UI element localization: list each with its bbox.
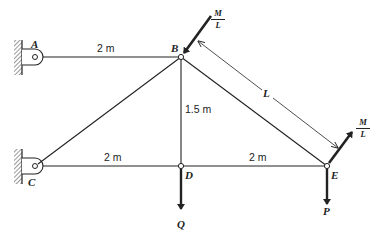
node-label-b: B [171, 43, 178, 54]
dimension-line-l-b [273, 98, 338, 148]
dimension-be: L [263, 88, 270, 99]
load-label-e: M L [356, 118, 370, 138]
load-label-b-denominator: L [211, 20, 225, 30]
load-label-q: Q [177, 219, 185, 230]
node-label-c: C [28, 177, 35, 188]
joint-b [178, 54, 183, 59]
dimension-bd: 1.5 m [185, 104, 211, 115]
load-label-b-numerator: M [211, 9, 225, 20]
dimension-ab: 2 m [97, 43, 115, 54]
node-label-e: E [331, 170, 338, 181]
node-label-d: D [185, 170, 193, 181]
dimension-cd: 2 m [104, 152, 122, 163]
wall-support-a [14, 40, 43, 75]
dimension-line-l-a [198, 41, 262, 90]
load-arrow-e [329, 132, 352, 163]
node-label-a: A [31, 39, 38, 50]
load-label-b: M L [211, 9, 225, 29]
truss-members [38, 57, 327, 166]
load-label-e-denominator: L [356, 129, 370, 139]
joint-e [324, 163, 329, 168]
truss-diagram [0, 0, 376, 237]
member-bc [38, 57, 181, 164]
load-label-p: P [323, 206, 330, 217]
joint-d [178, 163, 183, 168]
load-label-e-numerator: M [356, 118, 370, 129]
dimension-de: 2 m [249, 152, 267, 163]
